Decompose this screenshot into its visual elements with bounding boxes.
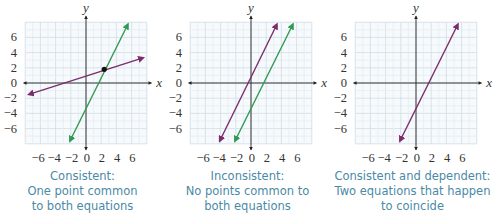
y-tick-label: −4 bbox=[169, 106, 183, 120]
y-axis-label: y bbox=[246, 0, 254, 15]
y-tick-label: 0 bbox=[176, 76, 182, 90]
y-tick-label: 0 bbox=[11, 76, 17, 90]
x-tick-label: −2 bbox=[65, 151, 78, 165]
y-tick-label: 6 bbox=[11, 30, 17, 44]
x-tick-label: 2 bbox=[99, 151, 105, 165]
x-axis-label: x bbox=[155, 75, 162, 90]
caption-line-1: Consistent: bbox=[0, 169, 165, 184]
y-tick-label: −6 bbox=[334, 122, 347, 136]
intersection-point bbox=[102, 67, 107, 72]
y-tick-label: 4 bbox=[11, 46, 18, 60]
x-tick-label: −6 bbox=[31, 151, 44, 165]
x-tick-label: −4 bbox=[377, 151, 391, 165]
x-tick-label: 4 bbox=[444, 151, 451, 165]
y-tick-label: −2 bbox=[334, 91, 347, 105]
caption-consistent: Consistent: One point common to both equ… bbox=[0, 169, 165, 214]
caption-inconsistent: Inconsistent: No points common to both e… bbox=[165, 169, 330, 214]
y-tick-label: −6 bbox=[169, 122, 182, 136]
y-tick-label: −2 bbox=[4, 91, 17, 105]
x-axis-label: x bbox=[485, 75, 492, 90]
caption-line-3: to both equations bbox=[0, 199, 165, 214]
y-tick-label: 2 bbox=[341, 61, 347, 75]
x-tick-label: 2 bbox=[264, 151, 270, 165]
x-tick-label: 6 bbox=[294, 151, 300, 165]
caption-line-2: Two equations that happen bbox=[330, 184, 495, 199]
x-tick-label: 2 bbox=[429, 151, 435, 165]
graph-inconsistent: xy6420−2−4−6−6−4−20246 bbox=[165, 0, 330, 165]
y-tick-label: −4 bbox=[334, 106, 348, 120]
y-tick-label: 4 bbox=[176, 46, 183, 60]
x-tick-label: 0 bbox=[84, 151, 90, 165]
graph-panel-consistent: xy6420−2−4−6−6−4−20246 Consistent: One p… bbox=[0, 0, 165, 224]
x-tick-label: 6 bbox=[129, 151, 135, 165]
caption-line-1: Inconsistent: bbox=[165, 169, 330, 184]
y-tick-label: 4 bbox=[341, 46, 348, 60]
y-tick-label: 2 bbox=[11, 61, 17, 75]
y-axis-label: y bbox=[411, 0, 419, 15]
x-tick-label: −6 bbox=[361, 151, 374, 165]
y-tick-label: −6 bbox=[4, 122, 17, 136]
caption-line-3: to coincide bbox=[330, 199, 495, 214]
x-tick-label: −4 bbox=[47, 151, 61, 165]
x-axis-label: x bbox=[320, 75, 327, 90]
graph-panel-dependent: xy6420−2−4−6−6−4−20246 Consistent and de… bbox=[330, 0, 495, 224]
x-tick-label: 4 bbox=[114, 151, 121, 165]
caption-line-2: One point common bbox=[0, 184, 165, 199]
x-tick-label: 0 bbox=[249, 151, 255, 165]
x-tick-label: −2 bbox=[230, 151, 243, 165]
y-tick-label: 6 bbox=[176, 30, 182, 44]
x-tick-label: 6 bbox=[459, 151, 465, 165]
x-tick-label: −6 bbox=[196, 151, 209, 165]
x-tick-label: 4 bbox=[279, 151, 286, 165]
y-tick-label: −4 bbox=[4, 106, 18, 120]
y-tick-label: −2 bbox=[169, 91, 182, 105]
caption-line-2: No points common to bbox=[165, 184, 330, 199]
caption-line-3: both equations bbox=[165, 199, 330, 214]
caption-dependent: Consistent and dependent: Two equations … bbox=[330, 169, 495, 214]
graph-panel-inconsistent: xy6420−2−4−6−6−4−20246 Inconsistent: No … bbox=[165, 0, 330, 224]
x-tick-label: −2 bbox=[395, 151, 408, 165]
caption-line-1: Consistent and dependent: bbox=[330, 169, 495, 184]
y-tick-label: 6 bbox=[341, 30, 347, 44]
x-tick-label: −4 bbox=[212, 151, 226, 165]
y-tick-label: 0 bbox=[341, 76, 347, 90]
y-tick-label: 2 bbox=[176, 61, 182, 75]
graph-consistent: xy6420−2−4−6−6−4−20246 bbox=[0, 0, 165, 165]
x-tick-label: 0 bbox=[414, 151, 420, 165]
y-axis-label: y bbox=[81, 0, 89, 15]
graph-dependent: xy6420−2−4−6−6−4−20246 bbox=[330, 0, 495, 165]
